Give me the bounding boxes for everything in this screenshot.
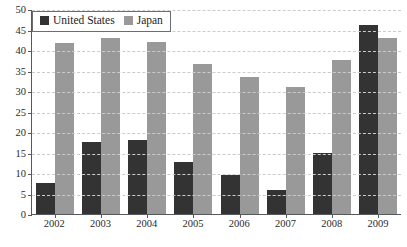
plot-area: 05101520253035404550	[31, 10, 401, 215]
x-axis-label: 2006	[216, 219, 262, 230]
y-axis-tick	[28, 113, 32, 114]
bar	[332, 60, 351, 214]
grid-line	[32, 113, 401, 114]
clipped-caption	[0, 241, 407, 247]
grid-line	[32, 72, 401, 73]
y-axis-tick-label: 20	[16, 128, 27, 139]
chart-legend: United StatesJapan	[32, 11, 171, 32]
bar	[128, 140, 147, 214]
legend-entry: United States	[40, 15, 115, 27]
x-axis-label: 2009	[355, 219, 401, 230]
legend-label: Japan	[137, 15, 163, 27]
bar	[174, 162, 193, 214]
clipped-caption-text	[0, 241, 407, 247]
legend-entry: Japan	[124, 15, 163, 27]
x-axis-label: 2002	[31, 219, 77, 230]
y-axis-tick-label: 30	[16, 87, 27, 98]
y-axis-tick	[28, 195, 32, 196]
y-axis-tick	[28, 174, 32, 175]
grid-line	[32, 174, 401, 175]
x-axis-label: 2005	[170, 219, 216, 230]
x-axis-label: 2007	[262, 219, 308, 230]
bar	[359, 25, 378, 214]
y-axis-tick-label: 10	[16, 169, 27, 180]
y-axis-tick	[28, 92, 32, 93]
x-axis-label: 2008	[309, 219, 355, 230]
bar	[101, 38, 120, 214]
y-axis-tick-label: 25	[16, 107, 27, 118]
y-axis-tick-label: 45	[16, 25, 27, 36]
grid-line	[32, 133, 401, 134]
y-axis-tick-label: 5	[21, 189, 26, 200]
y-axis-tick	[28, 51, 32, 52]
y-axis-tick-label: 15	[16, 148, 27, 159]
y-axis-tick	[28, 72, 32, 73]
grid-line	[32, 195, 401, 196]
y-axis-tick-label: 35	[16, 66, 27, 77]
y-axis-tick-label: 40	[16, 46, 27, 57]
bar	[313, 153, 332, 215]
grid-line	[32, 92, 401, 93]
bar	[240, 77, 259, 214]
grid-line	[32, 51, 401, 52]
bar	[378, 38, 397, 214]
legend-label: United States	[53, 15, 115, 27]
bar	[55, 43, 74, 214]
bar	[147, 42, 166, 214]
bar	[36, 183, 55, 214]
y-axis-tick	[28, 154, 32, 155]
x-axis-labels: 20022003200420052006200720082009	[31, 219, 401, 230]
y-axis-tick-label: 0	[21, 210, 26, 221]
bar	[193, 64, 212, 214]
legend-swatch-icon	[124, 16, 133, 25]
y-axis-tick-label: 50	[16, 5, 27, 16]
bar-chart: 05101520253035404550 2002200320042005200…	[0, 0, 407, 247]
y-axis-tick	[28, 133, 32, 134]
y-axis-tick	[28, 215, 32, 216]
legend-swatch-icon	[40, 16, 49, 25]
grid-line	[32, 154, 401, 155]
x-axis-label: 2004	[124, 219, 170, 230]
x-axis-label: 2003	[77, 219, 123, 230]
